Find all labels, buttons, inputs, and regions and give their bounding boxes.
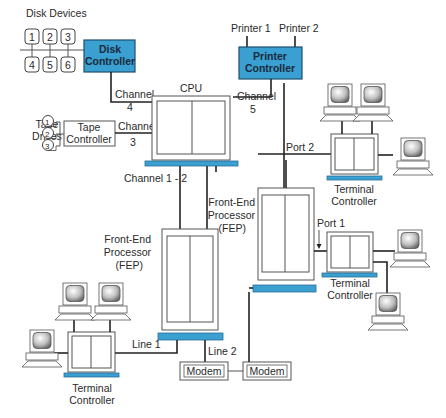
network-diagram: Disk Devices 1 2 3 4 5 6 <box>0 0 446 418</box>
modem-right[interactable]: Modem <box>243 362 291 380</box>
svg-text:2: 2 <box>45 130 50 139</box>
fep-left[interactable] <box>158 229 223 340</box>
svg-text:4: 4 <box>29 59 35 71</box>
terminal-icon[interactable] <box>91 283 131 320</box>
printer-2-label: Printer 2 <box>279 22 319 34</box>
svg-text:Terminal: Terminal <box>72 382 112 394</box>
svg-text:Terminal: Terminal <box>334 183 374 195</box>
svg-text:3: 3 <box>65 31 71 43</box>
fep-left-label-2: Processor <box>104 246 152 258</box>
cpu[interactable] <box>145 96 238 166</box>
svg-text:Controller: Controller <box>331 195 377 207</box>
svg-text:Controller: Controller <box>69 394 115 406</box>
disk-icon: 4 <box>25 57 39 72</box>
disk-icon: 1 <box>25 29 39 44</box>
svg-text:Modem: Modem <box>249 365 284 377</box>
channel-5-label: Channel <box>237 90 276 102</box>
disk-array: 1 2 3 4 5 6 <box>20 29 86 72</box>
channel-3-label: Channel <box>118 120 157 132</box>
disk-icon: 5 <box>43 57 57 72</box>
fep-right[interactable] <box>253 188 316 292</box>
terminal-icon[interactable] <box>368 293 408 330</box>
line-1-label: Line 1 <box>132 338 161 350</box>
svg-text:3: 3 <box>45 142 50 151</box>
fep-left-label-3: (FEP) <box>116 259 143 271</box>
svg-text:5: 5 <box>47 59 53 71</box>
channel-1-2-label: Channel 1 - 2 <box>124 172 187 184</box>
svg-text:Terminal: Terminal <box>330 277 370 289</box>
printer-controller[interactable]: Printer Controller <box>239 47 302 79</box>
disk-icon: 6 <box>61 57 75 72</box>
channel-5-number: 5 <box>250 103 256 115</box>
disk-controller[interactable]: Disk Controller <box>84 40 135 72</box>
svg-text:Controller: Controller <box>85 55 135 67</box>
svg-text:Tape: Tape <box>78 121 101 133</box>
svg-text:Modem: Modem <box>186 365 221 377</box>
svg-text:Disk: Disk <box>99 43 121 55</box>
modem-left[interactable]: Modem <box>180 362 228 380</box>
svg-text:Printer: Printer <box>253 50 287 62</box>
svg-text:2: 2 <box>47 31 53 43</box>
channel-3-number: 3 <box>130 136 136 148</box>
svg-text:Controller: Controller <box>245 62 295 74</box>
svg-text:Controller: Controller <box>327 289 373 301</box>
disk-icon: 2 <box>43 29 57 44</box>
terminal-icon[interactable] <box>353 84 393 121</box>
channel-4-label: Channel <box>115 88 154 100</box>
terminal-icon[interactable] <box>390 230 430 267</box>
fep-left-label-1: Front-End <box>104 233 151 245</box>
svg-text:1: 1 <box>45 118 50 127</box>
cpu-label: CPU <box>180 82 202 94</box>
svg-text:1: 1 <box>29 31 35 43</box>
disk-icon: 3 <box>61 29 75 44</box>
fep-right-label-3: (FEP) <box>219 222 246 234</box>
port-2-label: Port 2 <box>286 141 314 153</box>
terminal-icon[interactable] <box>22 330 62 367</box>
channel-4-number: 4 <box>127 101 133 113</box>
terminal-icon[interactable] <box>320 84 360 121</box>
terminal-controller-bottom-left[interactable] <box>64 332 119 377</box>
disk-devices-label: Disk Devices <box>26 7 87 19</box>
printer-1-label: Printer 1 <box>231 22 271 34</box>
terminal-controller-top-right[interactable] <box>327 134 382 180</box>
fep-right-label-1: Front-End <box>208 196 255 208</box>
terminal-icon[interactable] <box>393 138 433 175</box>
line-2-label: Line 2 <box>208 345 237 357</box>
svg-text:Controller: Controller <box>66 133 112 145</box>
terminal-controller-right[interactable] <box>322 232 377 277</box>
fep-right-label-2: Processor <box>208 209 256 221</box>
terminal-icon[interactable] <box>55 283 95 320</box>
tape-controller[interactable]: Tape Controller <box>64 121 115 146</box>
svg-text:6: 6 <box>65 59 71 71</box>
port-1-label: Port 1 <box>317 217 345 229</box>
